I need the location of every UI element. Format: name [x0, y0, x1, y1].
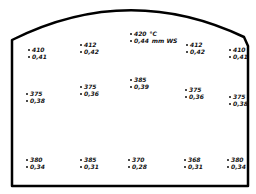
point-marker-icon	[229, 56, 231, 58]
point-marker-icon	[128, 159, 130, 161]
pressure-value: 0,34	[26, 163, 45, 170]
temperature-value: 375	[26, 90, 45, 97]
pressure-unit: mm WS	[152, 37, 178, 44]
temperature-value: 380	[26, 156, 45, 163]
point-marker-icon	[26, 159, 28, 161]
measurement-point: 3700,28	[128, 156, 147, 170]
measurement-point: 3750,36	[185, 86, 204, 100]
pressure-value: 0,41	[28, 53, 47, 60]
point-marker-icon	[130, 86, 132, 88]
point-marker-icon	[26, 100, 28, 102]
point-marker-icon	[229, 96, 231, 98]
point-marker-icon	[185, 96, 187, 98]
measurement-point: 3750,36	[80, 83, 99, 97]
pressure-value: 0,36	[185, 93, 204, 100]
pressure-value: 0,36	[80, 90, 99, 97]
point-marker-icon	[80, 93, 82, 95]
temperature-value: 385	[80, 156, 99, 163]
measurement-point: 3750,38	[229, 93, 248, 107]
temperature-value: 375	[185, 86, 204, 93]
temperature-value: 410	[28, 46, 47, 53]
point-marker-icon	[80, 51, 82, 53]
temperature-value: 412	[186, 41, 205, 48]
temperature-value: 375	[80, 83, 99, 90]
point-marker-icon	[185, 89, 187, 91]
point-marker-icon	[186, 44, 188, 46]
point-marker-icon	[128, 166, 130, 168]
temperature-value: 380	[227, 156, 246, 163]
measurement-point: 4100,41	[229, 46, 248, 60]
measurement-point: 3680,31	[184, 156, 203, 170]
point-marker-icon	[28, 49, 30, 51]
measurement-point: 3850,31	[80, 156, 99, 170]
point-marker-icon	[184, 166, 186, 168]
pressure-value: 0,39	[130, 83, 149, 90]
measurement-point: 3850,39	[130, 76, 149, 90]
pressure-value: 0,31	[80, 163, 99, 170]
temperature-value: 412	[80, 41, 99, 48]
point-marker-icon	[227, 159, 229, 161]
point-marker-icon	[28, 56, 30, 58]
measurement-point: 420°C0,44mm WS	[130, 30, 177, 44]
point-marker-icon	[130, 33, 132, 35]
point-marker-icon	[80, 44, 82, 46]
pressure-value: 0,42	[186, 48, 205, 55]
pressure-value: 0,41	[229, 53, 248, 60]
pressure-value: 0,31	[184, 163, 203, 170]
temperature-unit: °C	[150, 30, 157, 37]
point-marker-icon	[130, 79, 132, 81]
point-marker-icon	[229, 103, 231, 105]
pressure-value: 0,28	[128, 163, 147, 170]
point-marker-icon	[186, 51, 188, 53]
measurement-point: 4120,42	[80, 41, 99, 55]
point-marker-icon	[80, 159, 82, 161]
pressure-value: 0,38	[229, 100, 248, 107]
point-marker-icon	[227, 166, 229, 168]
point-marker-icon	[80, 166, 82, 168]
point-marker-icon	[80, 86, 82, 88]
pressure-value: 0,34	[227, 163, 246, 170]
point-marker-icon	[130, 40, 132, 42]
measurement-point: 3750,38	[26, 90, 45, 104]
temperature-value: 410	[229, 46, 248, 53]
temperature-value: 368	[184, 156, 203, 163]
temperature-value: 385	[130, 76, 149, 83]
point-marker-icon	[26, 93, 28, 95]
pressure-value: 0,38	[26, 97, 45, 104]
measurement-point: 4120,42	[186, 41, 205, 55]
point-marker-icon	[184, 159, 186, 161]
temperature-value: 370	[128, 156, 147, 163]
temperature-value: 375	[229, 93, 248, 100]
temperature-value: 420°C	[130, 30, 177, 37]
point-marker-icon	[229, 49, 231, 51]
measurement-point: 4100,41	[28, 46, 47, 60]
point-marker-icon	[26, 166, 28, 168]
measurement-point: 3800,34	[26, 156, 45, 170]
pressure-value: 0,42	[80, 48, 99, 55]
measurement-point: 3800,34	[227, 156, 246, 170]
pressure-value: 0,44mm WS	[130, 37, 177, 44]
